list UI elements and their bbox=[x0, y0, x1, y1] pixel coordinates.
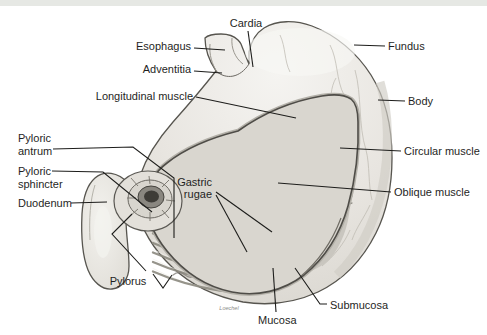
leader-fundus bbox=[354, 45, 385, 46]
label-pyloric-sphincter-line1: Pyloric bbox=[18, 165, 52, 177]
label-pyloric-antrum-line1: Pyloric bbox=[18, 132, 52, 144]
label-circular-muscle: Circular muscle bbox=[404, 145, 480, 157]
label-duodenum: Duodenum bbox=[18, 197, 72, 209]
label-gastric-rugae-line2: rugae bbox=[184, 188, 212, 200]
stomach-illustration bbox=[82, 22, 392, 304]
label-longitudinal-muscle: Longitudinal muscle bbox=[96, 90, 193, 102]
stomach-diagram-svg: Cardia Esophagus Adventitia Longitudinal… bbox=[0, 0, 487, 335]
label-submucosa: Submucosa bbox=[330, 299, 389, 311]
label-body: Body bbox=[408, 95, 434, 107]
anatomy-figure: Cardia Esophagus Adventitia Longitudinal… bbox=[0, 0, 487, 335]
label-pyloric-sphincter: Pyloric sphincter bbox=[18, 165, 63, 190]
label-pyloric-antrum: Pyloric antrum bbox=[18, 132, 52, 157]
label-pyloric-antrum-line2: antrum bbox=[18, 145, 52, 157]
label-fundus: Fundus bbox=[388, 40, 425, 52]
artist-signature: Loechel bbox=[219, 305, 239, 311]
label-pyloric-sphincter-line2: sphincter bbox=[18, 178, 63, 190]
label-pylorus: Pylorus bbox=[110, 275, 147, 287]
label-gastric-rugae-line1: Gastric bbox=[177, 176, 212, 188]
top-border-bar bbox=[0, 0, 487, 6]
label-oblique-muscle: Oblique muscle bbox=[394, 186, 470, 198]
duodenum-highlight bbox=[94, 206, 112, 258]
label-mucosa: Mucosa bbox=[258, 314, 297, 326]
label-adventitia: Adventitia bbox=[143, 63, 192, 75]
label-esophagus: Esophagus bbox=[136, 40, 192, 52]
fundus-highlight bbox=[245, 28, 355, 76]
label-cardia: Cardia bbox=[230, 17, 263, 29]
